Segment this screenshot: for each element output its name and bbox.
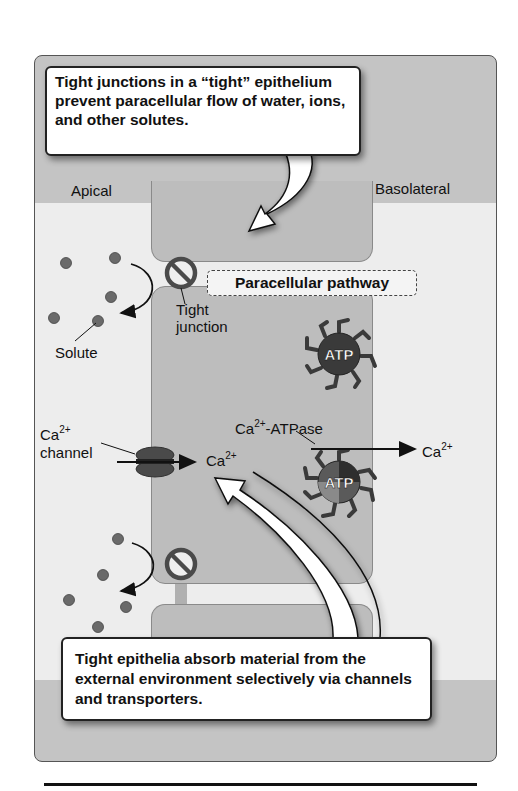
bottom-callout-arrow bbox=[215, 472, 380, 638]
solute-dot bbox=[64, 595, 75, 606]
solutes-lower bbox=[64, 534, 132, 633]
solute-dot bbox=[61, 258, 72, 269]
solute-dot bbox=[121, 602, 132, 613]
top-callout: Tight junctions in a “tight” epithelium … bbox=[45, 66, 361, 156]
atp-text-lower: ATP bbox=[325, 474, 354, 491]
diagram-panel: Apical Basolateral Paracellular pathway … bbox=[34, 55, 497, 762]
blocked-icon-lower bbox=[167, 550, 195, 578]
solute-reflect-arrow-lower bbox=[121, 543, 153, 591]
solute-dot bbox=[93, 622, 104, 633]
tight-junction-pointer bbox=[181, 288, 185, 304]
solute-dot bbox=[113, 534, 124, 545]
solute-pointer bbox=[75, 323, 96, 341]
blocked-icon-upper bbox=[167, 259, 195, 287]
atp-text-upper: ATP bbox=[325, 346, 354, 363]
bottom-divider bbox=[44, 783, 477, 786]
solute-dot bbox=[98, 570, 109, 581]
solute-dot bbox=[49, 313, 60, 324]
solute-dot bbox=[110, 253, 121, 264]
solutes-upper bbox=[49, 253, 121, 327]
solute-reflect-arrow-upper bbox=[121, 264, 152, 313]
ca-atpase-pointer bbox=[296, 431, 315, 444]
solute-dot bbox=[106, 292, 117, 303]
atpase-icon-upper: ATP bbox=[307, 320, 375, 388]
atpase-icon-lower: ATP bbox=[305, 450, 375, 516]
bottom-callout: Tight epithelia absorb material from the… bbox=[61, 637, 432, 721]
ca-channel-pointer bbox=[101, 443, 135, 454]
